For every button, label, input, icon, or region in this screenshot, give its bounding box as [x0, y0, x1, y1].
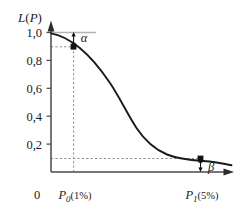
- data-point-p1: [198, 156, 204, 162]
- y-axis-title: L(P): [17, 10, 42, 25]
- data-point-p0: [71, 44, 77, 50]
- y-axis-title-func: L: [17, 10, 25, 25]
- alpha-label: α: [81, 31, 88, 45]
- y-axis-title-var: P: [29, 10, 38, 25]
- y-tick-label-1-0: 1,0: [26, 26, 42, 40]
- y-axis-title-close: ): [38, 10, 42, 25]
- y-tick-label-0-4: 0,4: [26, 110, 42, 124]
- y-tick-label-0-6: 0,6: [26, 82, 42, 96]
- y-tick-label-0-2: 0,2: [26, 138, 42, 152]
- oc-curve-figure: 1,0 0,8 0,6 0,4 0,2 L(P) 0 P0(1%) P1(5%)…: [0, 0, 240, 211]
- origin-label: 0: [34, 188, 40, 202]
- x-tick-label-p0-pct: (1%): [71, 190, 92, 202]
- x-tick-label-p1-pct: (5%): [198, 190, 219, 202]
- oc-curve-plot: 1,0 0,8 0,6 0,4 0,2 L(P) 0 P0(1%) P1(5%)…: [0, 0, 240, 211]
- beta-label: β: [207, 160, 215, 174]
- y-tick-label-0-8: 0,8: [26, 54, 42, 68]
